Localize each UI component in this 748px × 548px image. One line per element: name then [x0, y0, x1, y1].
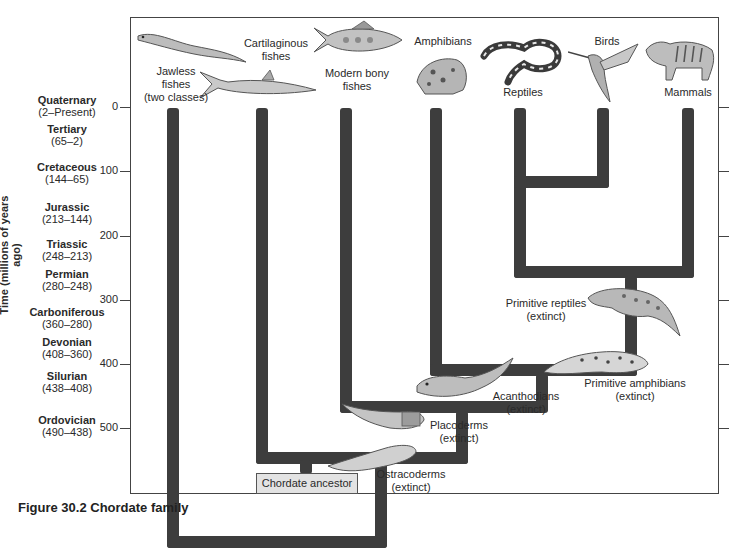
tick-300: [120, 300, 130, 301]
label-ostracoderms: Ostracoderms (extinct): [373, 468, 449, 494]
era-range: (360–280): [18, 318, 116, 330]
tick-500: [120, 428, 130, 429]
label-mammals: Mammals: [660, 86, 716, 99]
tick-label-500: 500: [88, 421, 118, 433]
hummingbird-icon: [568, 42, 640, 104]
label-acanthodians: Acanthodians (extinct): [488, 390, 564, 416]
y-axis-title: Time (millions of years ago): [0, 185, 22, 325]
era-name: Tertiary: [18, 123, 116, 135]
primitive-amphibian-icon: [542, 346, 650, 380]
tick-label-200: 200: [88, 229, 118, 241]
label-amphibians: Amphibians: [408, 35, 478, 48]
tick-200: [120, 236, 130, 237]
branch-cartilaginous: [256, 108, 268, 464]
tick-label-0: 0: [88, 100, 118, 112]
primitive-reptile-icon: [584, 284, 684, 340]
shark-icon: [198, 68, 318, 104]
right-tick-100: [719, 171, 729, 172]
right-tick-0: [719, 107, 729, 108]
era-range: (213–144): [18, 213, 116, 225]
right-tick-400: [719, 364, 729, 365]
era-name: Devonian: [18, 336, 116, 348]
right-tick-300: [719, 300, 729, 301]
label-birds: Birds: [590, 35, 624, 48]
branch-mammals: [682, 108, 694, 278]
placoderm-icon: [340, 400, 426, 434]
era-range: (280–248): [18, 280, 116, 292]
label-cartilaginous-fishes: Cartilaginous fishes: [236, 37, 316, 63]
era-carboniferous: Carboniferous (360–280): [18, 306, 116, 330]
era-name: Jurassic: [18, 201, 116, 213]
era-triassic: Triassic (248–213): [18, 238, 116, 262]
era-range: (438–408): [18, 382, 116, 394]
join-vertebrates: [167, 536, 387, 548]
label-primitive-amphibians: Primitive amphibians (extinct): [578, 377, 692, 403]
tick-label-100: 100: [88, 164, 118, 176]
era-range: (65–2): [18, 135, 116, 147]
snake-icon: [480, 36, 562, 86]
tick-0: [120, 107, 130, 108]
tick-label-300: 300: [88, 293, 118, 305]
tick-400: [120, 364, 130, 365]
tiger-icon: [642, 36, 718, 84]
branch-reptiles: [514, 108, 526, 278]
label-modern-bony-fishes: Modern bony fishes: [317, 67, 397, 93]
join-amniotes: [514, 266, 694, 278]
frog-icon: [413, 52, 473, 96]
right-tick-200: [719, 236, 729, 237]
era-name: Silurian: [18, 370, 116, 382]
label-primitive-reptiles: Primitive reptiles (extinct): [496, 297, 596, 323]
label-placoderms: Placoderms (extinct): [426, 419, 492, 445]
branch-amphibians: [430, 108, 442, 376]
join-reptiles-birds: [514, 176, 609, 188]
era-name: Carboniferous: [18, 306, 116, 318]
label-jawless-fishes: Jawless fishes (two classes): [138, 65, 214, 104]
tick-label-400: 400: [88, 357, 118, 369]
label-reptiles: Reptiles: [498, 86, 548, 99]
branch-bony: [340, 108, 352, 413]
bony-fish-icon: [312, 20, 404, 60]
era-range: (248–213): [18, 250, 116, 262]
era-permian: Permian (280–248): [18, 268, 116, 292]
lamprey-icon: [134, 28, 249, 66]
era-tertiary: Tertiary (65–2): [18, 123, 116, 147]
era-silurian: Silurian (438–408): [18, 370, 116, 394]
chordate-ancestor-box: Chordate ancestor: [256, 473, 358, 494]
era-jurassic: Jurassic (213–144): [18, 201, 116, 225]
figure-caption: Figure 30.2 Chordate family: [18, 500, 189, 515]
era-name: Permian: [18, 268, 116, 280]
right-tick-500: [719, 428, 729, 429]
root-stem: [300, 460, 312, 474]
branch-jawless: [167, 108, 179, 548]
tick-100: [120, 171, 130, 172]
